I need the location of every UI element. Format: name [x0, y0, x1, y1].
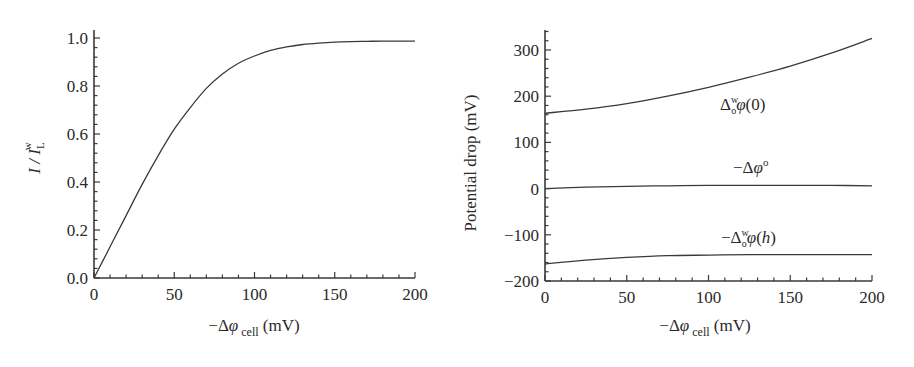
annotation-minus-delta-phi-h: −Δwoφ(h)	[721, 227, 776, 249]
right-chart-potential-drop: 050100150200−200−1000100200300 Potential…	[461, 30, 885, 339]
y-tick-label: 200	[514, 87, 540, 106]
x-tick-label: 200	[402, 285, 428, 304]
x-tick-label: 100	[242, 285, 268, 304]
y-tick-label: 0.8	[67, 77, 88, 96]
x-tick-label: 50	[166, 285, 183, 304]
x-tick-label: 150	[322, 285, 348, 304]
annotation-delta-phi-0: Δwoφ(0)	[720, 94, 765, 116]
y-tick-label: 0	[531, 180, 540, 199]
x-tick-label: 150	[778, 288, 804, 307]
y-tick-label: 0.4	[67, 173, 89, 192]
y-tick-label: 0.6	[67, 125, 88, 144]
data-curve	[545, 38, 872, 113]
annotation-minus-delta-phi-o: −Δφo	[733, 156, 769, 177]
x-tick-label: 0	[90, 285, 99, 304]
data-curve	[545, 185, 872, 188]
right-chart-y-axis-label: Potential drop (mV)	[461, 95, 480, 232]
x-tick-label: 100	[696, 288, 722, 307]
left-chart-x-axis-label: −Δφcell (mV)	[208, 316, 299, 339]
right-chart-x-axis-label: −Δφcell (mV)	[659, 316, 750, 339]
data-curve	[94, 41, 415, 278]
x-tick-label: 50	[618, 288, 635, 307]
left-chart-y-axis-label: I / ILw	[21, 142, 46, 175]
y-tick-label: 0.0	[67, 269, 88, 288]
left-chart-current-ratio: 0501001502000.00.20.40.60.81.0 I / ILw −…	[21, 29, 428, 339]
figure-canvas: 0501001502000.00.20.40.60.81.0 I / ILw −…	[0, 0, 914, 367]
x-tick-label: 200	[859, 288, 885, 307]
y-tick-label: 100	[514, 133, 540, 152]
right-chart-tick-labels: 050100150200−200−1000100200300	[504, 41, 885, 307]
right-chart-axes	[545, 30, 872, 281]
right-chart-ticks	[545, 32, 872, 282]
right-chart-curves	[545, 38, 872, 263]
y-tick-label: −200	[504, 272, 539, 291]
y-tick-label: 300	[514, 41, 540, 60]
left-chart-ticks	[94, 38, 415, 278]
left-chart-curve	[94, 41, 415, 278]
x-tick-label: 0	[541, 288, 550, 307]
y-tick-label: 0.2	[67, 221, 88, 240]
left-chart-tick-labels: 0501001502000.00.20.40.60.81.0	[67, 29, 428, 304]
y-tick-label: 1.0	[67, 29, 88, 48]
left-chart-axes	[94, 30, 415, 278]
y-tick-label: −100	[504, 226, 539, 245]
data-curve	[545, 255, 872, 264]
